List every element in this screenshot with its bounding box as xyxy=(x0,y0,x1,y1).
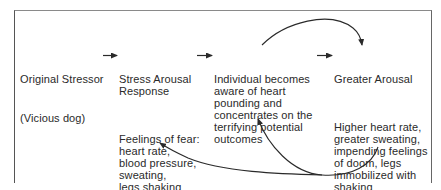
arrow-curve-top xyxy=(262,19,362,45)
arrow-curve-bottom-to-individual xyxy=(258,119,378,175)
arrow-curve-bottom-to-arousal xyxy=(160,143,322,175)
arrows-layer xyxy=(0,0,441,190)
